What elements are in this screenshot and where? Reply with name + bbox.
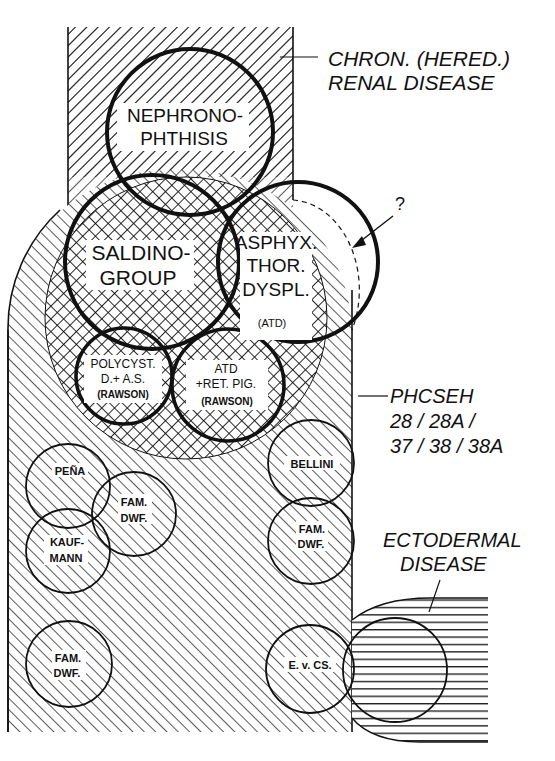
saldino-group-label: SALDINO- GROUP: [86, 240, 194, 290]
renal-label-line1: CHRON. (HERED.): [328, 47, 510, 70]
question-arrow-icon: [352, 216, 393, 248]
renal-label-line2: RENAL DISEASE: [328, 71, 496, 94]
atd-ret-pig-label: ATD +RET. PIG. (RAWSON): [186, 360, 268, 410]
svg-text:ATD: ATD: [214, 362, 237, 376]
svg-text:(ATD): (ATD): [258, 317, 287, 329]
polycyst-label: POLYCYST. D.+ A.S. (RAWSON): [84, 355, 162, 403]
ectodermal-label-line2: DISEASE: [400, 553, 487, 575]
svg-text:SALDINO-: SALDINO-: [91, 241, 190, 264]
pena-label: PEÑA: [52, 463, 88, 477]
svg-text:POLYCYST.: POLYCYST.: [90, 357, 155, 371]
svg-text:THOR.: THOR.: [246, 255, 305, 276]
svg-text:BELLINI: BELLINI: [291, 458, 334, 470]
phcseh-label-line1: PHCSEH: [390, 385, 474, 407]
evcs-label: E. v. CS.: [284, 657, 336, 672]
svg-text:(RAWSON): (RAWSON): [97, 389, 149, 400]
asphyx-label: ASPHYX. THOR. DYSPL. (ATD): [235, 232, 317, 340]
svg-text:FAM.: FAM.: [121, 496, 147, 508]
svg-text:PEÑA: PEÑA: [55, 465, 86, 477]
svg-text:PHTHISIS: PHTHISIS: [140, 128, 228, 149]
fam-dwf-2-label: FAM. DWF.: [296, 521, 328, 551]
fam-dwf-1-label: FAM. DWF.: [118, 494, 152, 524]
phcseh-label-line2: 28 / 28A /: [389, 410, 477, 432]
svg-text:KAUF-: KAUF-: [50, 536, 85, 548]
svg-text:(RAWSON): (RAWSON): [201, 396, 253, 407]
svg-text:GROUP: GROUP: [99, 266, 176, 289]
phcseh-label-line3: 37 / 38 / 38A: [390, 435, 503, 457]
svg-text:+RET. PIG.: +RET. PIG.: [196, 377, 256, 391]
svg-text:FAM.: FAM.: [299, 523, 325, 535]
bellini-label: BELLINI: [284, 456, 340, 470]
nephronophthisis-label: NEPHRONO- PHTHISIS: [117, 103, 249, 151]
ectodermal-disease-region: [352, 598, 488, 742]
svg-text:MANN: MANN: [50, 552, 83, 564]
svg-text:DWF.: DWF.: [54, 667, 81, 679]
fam-dwf-3-label: FAM. DWF.: [52, 650, 86, 680]
svg-text:DWF.: DWF.: [121, 512, 148, 524]
question-mark: ?: [395, 194, 405, 214]
svg-text:NEPHRONO-: NEPHRONO-: [127, 105, 243, 126]
svg-text:FAM.: FAM.: [55, 652, 81, 664]
svg-text:ASPHYX.: ASPHYX.: [235, 232, 317, 253]
svg-text:D.+ A.S.: D.+ A.S.: [101, 372, 145, 386]
venn-diagram: CHRON. (HERED.) RENAL DISEASE PHCSEH 28 …: [0, 0, 555, 761]
kaufmann-label: KAUF- MANN: [44, 535, 88, 565]
ectodermal-label-line1: ECTODERMAL: [383, 529, 522, 551]
svg-text:E. v. CS.: E. v. CS.: [288, 659, 331, 671]
svg-text:DYSPL.: DYSPL.: [242, 279, 310, 300]
svg-text:DWF.: DWF.: [298, 538, 325, 550]
